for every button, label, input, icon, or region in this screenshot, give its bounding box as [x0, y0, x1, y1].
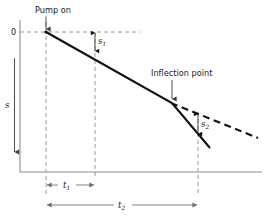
s2-label: s2 — [201, 119, 209, 130]
zero-tick-label: 0 — [11, 27, 16, 37]
pump-on-annotation: Pump on — [35, 5, 71, 29]
axis-group — [20, 20, 262, 172]
s1-measure: s1 — [95, 33, 106, 51]
observed-drawdown-curve — [46, 32, 210, 148]
s-axis-label: s — [5, 100, 10, 110]
reference-lines-group — [20, 22, 198, 196]
s-axis-annotation: 0 s — [5, 27, 16, 152]
pump-on-label: Pump on — [35, 5, 71, 15]
data-curves-group — [44, 30, 258, 148]
t1-dimension: t1 t1 — [47, 179, 94, 191]
drawdown-time-figure: Pump on Inflection point 0 s s1 s2 t1 — [0, 0, 274, 218]
extrapolated-early-trend-line — [171, 103, 258, 138]
t2-dimension: t2 — [47, 200, 197, 211]
origin-marker — [44, 30, 47, 33]
figure-canvas: Pump on Inflection point 0 s s1 s2 t1 — [0, 0, 274, 218]
inflection-point-label: Inflection point — [151, 68, 213, 78]
s1-label: s1 — [98, 36, 106, 47]
inflection-point-annotation: Inflection point — [151, 68, 213, 99]
